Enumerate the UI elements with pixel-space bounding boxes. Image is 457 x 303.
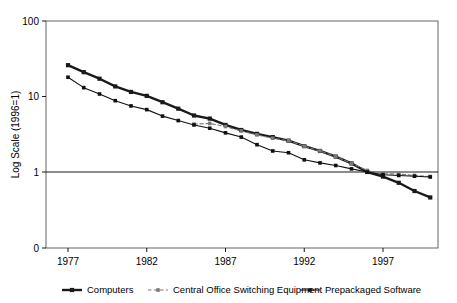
data-point-marker bbox=[239, 135, 243, 139]
data-point-marker bbox=[224, 125, 228, 129]
plot-area-border bbox=[46, 21, 438, 248]
x-axis-tick-label: 1997 bbox=[372, 256, 395, 267]
data-point-marker bbox=[255, 143, 259, 147]
line-chart: 100101019771982198719921997Log Scale (19… bbox=[0, 0, 457, 303]
data-point-marker bbox=[224, 131, 228, 135]
legend-item-2[interactable]: Central Office Switching Equipment bbox=[148, 284, 323, 295]
data-point-marker bbox=[82, 70, 86, 74]
data-point-marker bbox=[302, 158, 306, 162]
data-point-marker bbox=[365, 170, 369, 174]
data-point-marker bbox=[397, 174, 401, 178]
data-point-marker bbox=[413, 174, 417, 178]
data-point-marker bbox=[97, 77, 101, 81]
data-point-marker bbox=[82, 86, 86, 90]
x-axis-tick-label: 1982 bbox=[136, 256, 159, 267]
data-point-marker bbox=[412, 189, 416, 193]
data-point-marker bbox=[208, 116, 212, 120]
data-point-marker bbox=[397, 181, 401, 185]
data-point-marker bbox=[271, 149, 275, 153]
data-point-marker bbox=[239, 129, 243, 133]
data-point-marker bbox=[129, 104, 133, 108]
data-point-marker bbox=[287, 139, 291, 143]
y-axis-tick-label: 1 bbox=[33, 167, 39, 178]
data-point-marker bbox=[334, 164, 338, 168]
x-axis-tick-label: 1987 bbox=[214, 256, 237, 267]
data-point-marker bbox=[176, 107, 180, 111]
data-point-marker bbox=[318, 161, 322, 165]
legend-item-label: Prepackaged Software bbox=[325, 284, 421, 295]
data-point-marker bbox=[113, 99, 117, 103]
data-point-marker bbox=[255, 133, 259, 137]
legend-swatch-marker bbox=[308, 288, 312, 292]
data-point-marker bbox=[302, 144, 306, 148]
data-point-marker bbox=[208, 122, 212, 126]
legend-item-1[interactable]: Computers bbox=[62, 284, 134, 295]
data-point-marker bbox=[334, 155, 338, 159]
data-point-marker bbox=[192, 123, 196, 127]
legend-swatch-marker bbox=[156, 288, 160, 292]
data-point-marker bbox=[350, 167, 354, 171]
chart-root: 100101019771982198719921997Log Scale (19… bbox=[0, 0, 457, 303]
legend-item-label: Computers bbox=[87, 284, 134, 295]
data-point-marker bbox=[129, 90, 133, 94]
y-axis-tick-label: 100 bbox=[22, 16, 39, 27]
legend-swatch-marker bbox=[70, 288, 74, 292]
data-point-marker bbox=[192, 113, 196, 117]
data-point-marker bbox=[160, 100, 164, 104]
data-point-marker bbox=[145, 108, 149, 112]
x-axis-tick-label: 1992 bbox=[293, 256, 316, 267]
y-axis-tick-label: 0 bbox=[33, 243, 39, 254]
data-point-marker bbox=[66, 75, 70, 79]
chart-canvas: 100101019771982198719921997Log Scale (19… bbox=[0, 0, 457, 303]
data-point-marker bbox=[428, 195, 432, 199]
data-point-marker bbox=[161, 114, 165, 118]
data-point-marker bbox=[145, 94, 149, 98]
data-point-marker bbox=[98, 92, 102, 96]
data-point-marker bbox=[287, 151, 291, 155]
data-point-marker bbox=[350, 162, 354, 166]
data-point-marker bbox=[208, 126, 212, 130]
y-axis-title: Log Scale (1996=1) bbox=[10, 91, 21, 179]
x-axis-tick-label: 1977 bbox=[57, 256, 80, 267]
y-axis-tick-label: 10 bbox=[28, 91, 40, 102]
data-point-marker bbox=[113, 84, 117, 88]
data-point-marker bbox=[66, 63, 70, 67]
data-point-marker bbox=[381, 173, 385, 177]
data-point-marker bbox=[271, 136, 275, 140]
legend-item-label: Central Office Switching Equipment bbox=[173, 284, 323, 295]
data-point-marker bbox=[176, 119, 180, 123]
data-point-marker bbox=[318, 149, 322, 153]
data-point-marker bbox=[428, 175, 432, 179]
